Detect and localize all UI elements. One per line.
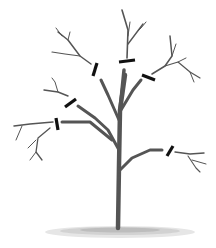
branch-left-middle [44,78,119,150]
branch-right-lower [120,150,206,172]
cut-mark [119,60,135,62]
branch-left-upper [52,28,119,120]
branch-right-upper [121,36,200,110]
cut-mark [65,99,76,107]
cut-mark [167,146,173,156]
cut-mark [93,63,97,76]
branch-left-lower [14,122,112,160]
cut-mark [56,118,58,130]
cut-mark [142,75,155,80]
tree-illustration [0,0,216,248]
